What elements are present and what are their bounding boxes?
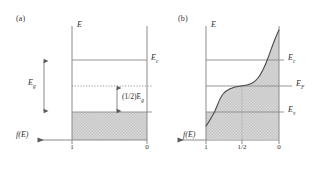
panel-a-group	[38, 26, 152, 144]
panel-a-valence-fill	[72, 112, 147, 140]
panel-a-fe-axis-label: f(E)	[16, 130, 28, 139]
panel-a-eg-label: Eg	[28, 78, 36, 89]
panel-b-tag: (b)	[178, 14, 188, 23]
panel-b-group	[178, 26, 292, 144]
panel-b-ef-label: EF	[296, 79, 304, 90]
panel-a-ec-label: Ec	[151, 53, 158, 64]
panel-a-half-eg-label: (1/2)Eg	[122, 92, 144, 103]
panel-a-energy-axis-label: E	[77, 20, 82, 29]
panel-b-energy-axis-label: E	[211, 20, 216, 29]
panel-a-xtick-label-1: 1	[67, 143, 77, 151]
panel-b-ev-label: Ev	[288, 105, 295, 116]
panel-a-xtick-label-0: 0	[142, 143, 152, 151]
panel-b-ec-label: Ec	[288, 53, 295, 64]
panel-b-xtick-label-half: 1/2	[235, 143, 249, 151]
panel-b-xtick-label-1: 1	[201, 143, 211, 151]
panel-b-fe-axis-label: f(E)	[183, 130, 195, 139]
panel-b-xtick-label-0: 0	[274, 143, 284, 151]
panel-a-tag: (a)	[16, 14, 25, 23]
